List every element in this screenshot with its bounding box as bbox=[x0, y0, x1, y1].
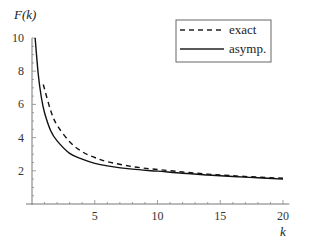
x-tick-label: 5 bbox=[92, 209, 98, 223]
y-tick-label: 2 bbox=[18, 164, 24, 178]
legend-label-exact: exact bbox=[229, 22, 257, 37]
series-exact-curve bbox=[43, 84, 283, 178]
x-tick-label: 10 bbox=[152, 209, 164, 223]
y-axis-label: F(k) bbox=[13, 7, 36, 22]
x-axis-label: k bbox=[280, 224, 286, 239]
y-tick-label: 4 bbox=[18, 131, 24, 145]
legend: exact asymp. bbox=[176, 20, 271, 62]
x-tick-label: 15 bbox=[214, 209, 226, 223]
legend-label-asymp: asymp. bbox=[229, 41, 266, 56]
x-tick-label: 20 bbox=[277, 209, 289, 223]
y-tick-label: 6 bbox=[18, 97, 24, 111]
chart: 5101520246810 exact asymp. F(k) k bbox=[0, 0, 310, 248]
y-tick-label: 8 bbox=[18, 64, 24, 78]
y-tick-label: 10 bbox=[12, 31, 24, 45]
